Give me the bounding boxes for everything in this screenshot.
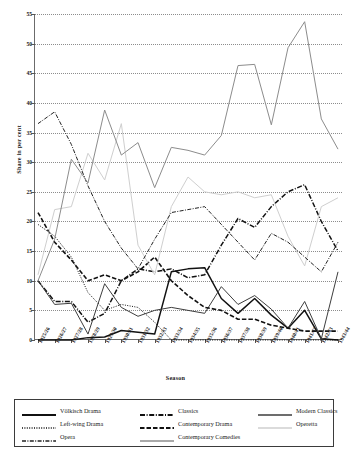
legend-item: Contemporary Comedies <box>139 432 257 442</box>
series-line <box>38 22 338 281</box>
series-line <box>38 112 338 272</box>
x-axis-title: Season <box>0 374 351 381</box>
legend-item: Contemporary Drama <box>139 419 257 429</box>
y-tick-label: 30 <box>14 159 32 165</box>
series-line <box>38 213 338 332</box>
legend-swatch <box>21 432 57 442</box>
y-tick-label: 5 <box>14 307 32 313</box>
legend-label: Völkisch Drama <box>60 407 101 414</box>
legend-label: Left-wing Drama <box>60 420 103 427</box>
legend-label: Classics <box>178 407 198 414</box>
legend-label: Operetta <box>296 420 317 427</box>
legend-item: Völkisch Drama <box>21 406 139 416</box>
y-tick-label: 10 <box>14 278 32 284</box>
legend-row: Völkisch DramaClassicsModern Classics <box>21 404 327 417</box>
series-lines <box>34 14 342 340</box>
legend-item: Left-wing Drama <box>21 419 139 429</box>
legend-label: Contemporary Comedies <box>178 433 240 440</box>
legend-swatch <box>257 419 293 429</box>
legend-label: Contemporary Drama <box>178 420 232 427</box>
legend-swatch <box>21 406 57 416</box>
y-tick-label: 20 <box>14 218 32 224</box>
legend-item: Operetta <box>257 419 317 429</box>
legend-swatch <box>139 406 175 416</box>
legend-swatch <box>139 419 175 429</box>
legend-swatch <box>257 406 293 416</box>
legend-swatch <box>21 419 57 429</box>
legend-item: Opera <box>21 432 139 442</box>
legend-swatch <box>139 432 175 442</box>
y-axis-tick-labels: 0510152025303540455055 <box>14 14 32 340</box>
y-tick-label: 45 <box>14 70 32 76</box>
plot-area: Share in per cent 0510152025303540455055… <box>0 0 351 352</box>
legend-item: Classics <box>139 406 257 416</box>
legend-label: Opera <box>60 433 75 440</box>
y-tick-label: 0 <box>14 337 32 343</box>
legend-row: Left-wing DramaContemporary DramaOperett… <box>21 417 327 430</box>
legend-label: Modern Classics <box>296 407 337 414</box>
series-line <box>38 185 338 323</box>
y-tick-label: 55 <box>14 11 32 17</box>
chart-legend: Völkisch DramaClassicsModern ClassicsLef… <box>14 399 334 447</box>
legend-item: Modern Classics <box>257 406 337 416</box>
y-tick-label: 25 <box>14 189 32 195</box>
y-tick-label: 40 <box>14 100 32 106</box>
axes <box>34 14 342 340</box>
series-line <box>38 124 338 275</box>
y-tick-label: 15 <box>14 248 32 254</box>
chart-page: Share in per cent 0510152025303540455055… <box>0 0 351 459</box>
y-tick-label: 50 <box>14 41 32 47</box>
y-tick-label: 35 <box>14 130 32 136</box>
